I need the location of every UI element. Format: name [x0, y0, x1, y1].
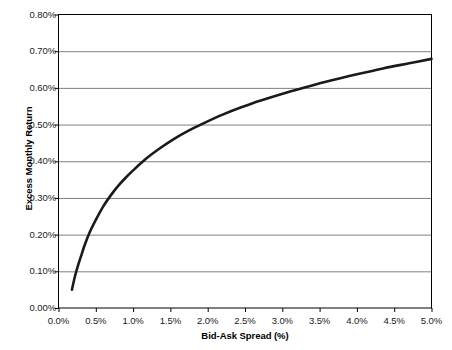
chart-container: 0.00%0.10%0.20%0.30%0.40%0.50%0.60%0.70%…	[0, 0, 452, 350]
x-tick-label: 5.0%	[410, 315, 452, 326]
x-axis-title: Bid-Ask Spread (%)	[58, 330, 432, 341]
y-axis-title: Excess Monthly Return	[23, 69, 34, 249]
x-axis-tick-labels: 0.0%0.5%1.0%1.5%2.0%2.5%3.0%3.5%4.0%4.5%…	[0, 0, 452, 350]
